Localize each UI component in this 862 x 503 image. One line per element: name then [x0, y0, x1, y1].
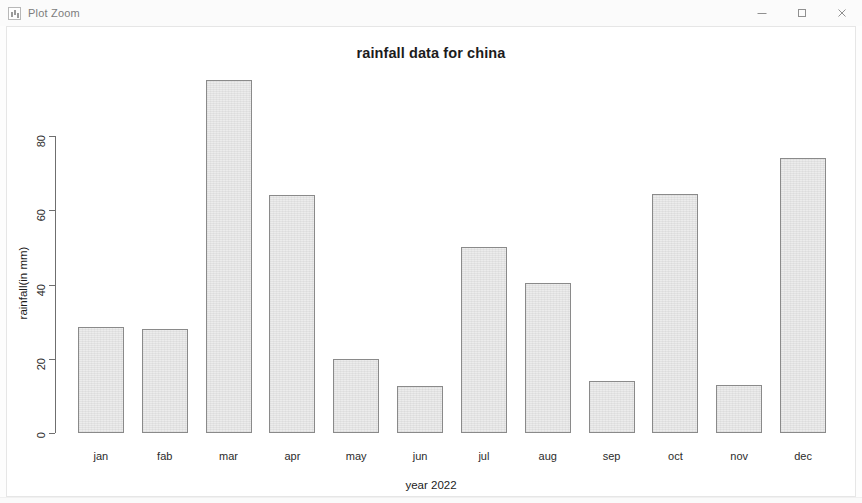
bar	[716, 385, 762, 433]
bar	[525, 283, 571, 433]
plot-zoom-window: Plot Zoom rainfall data for ch	[0, 0, 862, 503]
bar	[589, 381, 635, 433]
x-axis-tick-label: mar	[197, 450, 261, 462]
y-axis-tick	[49, 136, 55, 137]
y-axis-tick-label: 0	[35, 432, 47, 458]
x-axis-title: year 2022	[7, 479, 855, 491]
bar	[333, 359, 379, 433]
y-axis-tick-label: 20	[35, 358, 47, 384]
bar	[780, 158, 826, 433]
window-bottom-edge	[0, 497, 862, 503]
bar	[206, 80, 252, 433]
bar	[461, 247, 507, 433]
titlebar-left: Plot Zoom	[0, 7, 80, 20]
y-axis-tick	[49, 433, 55, 434]
y-axis-tick-label: 80	[35, 135, 47, 161]
y-axis-tick-label: 60	[35, 209, 47, 235]
bar	[652, 194, 698, 433]
x-axis-tick-label: sep	[580, 450, 644, 462]
x-axis-tick-label: may	[324, 450, 388, 462]
close-button[interactable]	[822, 0, 862, 26]
chart-title: rainfall data for china	[7, 45, 855, 61]
y-axis-tick-label: 40	[35, 284, 47, 310]
plot-window-icon	[8, 7, 21, 20]
x-axis-tick-label: dec	[771, 450, 835, 462]
maximize-button[interactable]	[782, 0, 822, 26]
minimize-button[interactable]	[742, 0, 782, 26]
window-controls	[742, 0, 862, 26]
bar	[142, 329, 188, 433]
y-axis-line	[55, 136, 56, 433]
y-axis-tick	[49, 285, 55, 286]
bar	[397, 386, 443, 433]
x-axis-tick-label: jul	[452, 450, 516, 462]
y-axis-tick	[49, 359, 55, 360]
x-axis-tick-label: fab	[133, 450, 197, 462]
plot-canvas: rainfall data for china rainfall(in mm) …	[6, 26, 856, 497]
x-axis-tick-label: aug	[516, 450, 580, 462]
x-axis-tick-label: jun	[388, 450, 452, 462]
window-title: Plot Zoom	[28, 7, 80, 19]
y-axis-tick	[49, 210, 55, 211]
x-axis-tick-label: apr	[261, 450, 325, 462]
x-axis-tick-label: jan	[69, 450, 133, 462]
y-axis-title: rainfall(in mm)	[17, 223, 29, 343]
bar	[269, 195, 315, 433]
titlebar: Plot Zoom	[0, 0, 862, 26]
bar	[78, 327, 124, 433]
x-axis-tick-label: oct	[644, 450, 708, 462]
x-axis-tick-label: nov	[707, 450, 771, 462]
